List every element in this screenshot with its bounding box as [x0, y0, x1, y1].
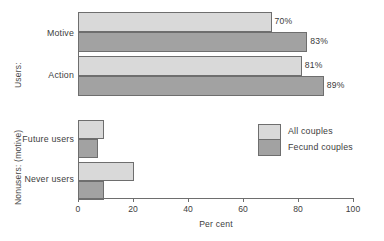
x-tick-100 — [353, 198, 354, 202]
bar-chart: Users: Nonusers: (motive) Motive Action … — [0, 0, 384, 241]
plot-panel-nonusers — [78, 120, 378, 198]
value-label-action-all-couples: 81% — [305, 60, 323, 70]
category-label-never-users-wrap: Never users — [0, 174, 74, 186]
bar-motive-fecund-couples — [78, 32, 307, 52]
legend-swatch-all-couples — [258, 124, 281, 140]
x-tick-label-40: 40 — [183, 204, 193, 214]
category-label-action-wrap: Action — [0, 70, 74, 82]
value-label-motive-all-couples: 70% — [275, 16, 293, 26]
category-label-motive-wrap: Motive — [0, 28, 74, 40]
category-label-motive: Motive — [47, 28, 74, 38]
x-tick-label-20: 20 — [128, 204, 138, 214]
legend-swatch-fecund-couples — [258, 140, 281, 156]
category-label-never-users: Never users — [24, 174, 74, 184]
bar-motive-all-couples — [78, 12, 272, 32]
x-tick-label-60: 60 — [238, 204, 248, 214]
x-axis-title: Per cent — [78, 219, 354, 229]
x-tick-80 — [298, 198, 299, 202]
category-label-action: Action — [48, 70, 74, 80]
x-tick-40 — [188, 198, 189, 202]
bar-never-users-all-couples — [78, 162, 134, 181]
legend-label-fecund-couples: Fecund couples — [288, 142, 353, 152]
bar-future-users-fecund-couples — [78, 139, 98, 158]
x-tick-label-0: 0 — [76, 204, 81, 214]
category-label-future-users: Future users — [22, 134, 74, 144]
bar-future-users-all-couples — [78, 120, 104, 139]
x-tick-0 — [78, 198, 79, 202]
x-axis-line — [78, 198, 354, 199]
x-tick-20 — [133, 198, 134, 202]
value-label-action-fecund-couples: 89% — [327, 80, 345, 90]
bar-action-all-couples — [78, 56, 302, 76]
value-label-motive-fecund-couples: 83% — [310, 36, 328, 46]
x-tick-label-80: 80 — [293, 204, 303, 214]
x-tick-label-100: 100 — [346, 204, 360, 214]
x-tick-60 — [243, 198, 244, 202]
legend-label-all-couples: All couples — [288, 126, 333, 136]
category-label-future-users-wrap: Future users — [0, 134, 74, 146]
bar-action-fecund-couples — [78, 76, 324, 96]
